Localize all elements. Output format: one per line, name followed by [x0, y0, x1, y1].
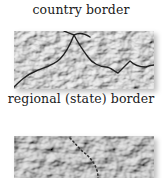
- regional-border-swatch: [14, 136, 154, 178]
- regional-border-label: regional (state) border: [0, 91, 162, 106]
- country-border-swatch: [14, 31, 154, 89]
- relief-terrain-image: [14, 31, 154, 89]
- relief-terrain-image: [14, 136, 154, 178]
- country-border-label: country border: [0, 2, 162, 17]
